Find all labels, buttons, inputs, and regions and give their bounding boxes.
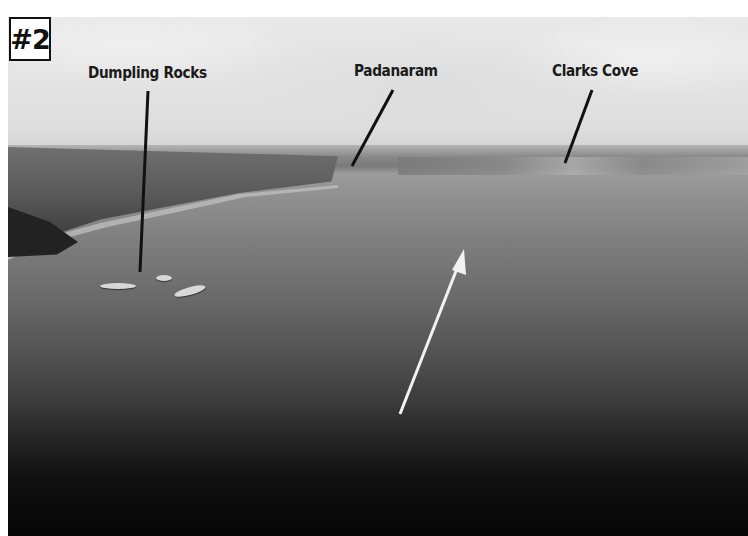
annotation-overlay [0, 0, 748, 536]
leader-line-clarks-cove [565, 90, 592, 163]
white-arrow-icon [400, 249, 466, 414]
leader-line-dumpling-rocks [140, 91, 148, 272]
leader-line-padanaram [352, 90, 393, 166]
